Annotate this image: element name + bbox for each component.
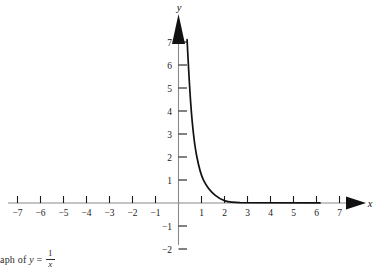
x-tick-label--5: −5 [58,208,68,218]
x-axis-arrow-icon [346,197,366,210]
x-tick-label-2: 2 [222,208,227,218]
caption-equals: = [34,254,45,265]
caption-denominator: x [46,260,55,269]
x-tick-label--2: −2 [127,208,137,218]
y-tick-label--2: −2 [162,245,172,255]
y-tick-label-7: 7 [167,38,172,48]
x-tick-label-3: 3 [245,208,250,218]
y-tick-label-6: 6 [167,61,172,71]
x-tick-label--6: −6 [35,208,45,218]
caption-numerator: 1 [46,249,55,258]
caption-prefix: aph of [0,254,29,265]
x-tick-label--1: −1 [150,208,160,218]
caption-fraction: 1x [46,249,55,269]
x-tick-label--7: −7 [12,208,22,218]
x-tick-label-7: 7 [337,208,342,218]
x-tick-label--4: −4 [81,208,91,218]
y-tick-label-5: 5 [167,84,172,94]
y-tick-label-2: 2 [167,153,172,163]
y-tick-label--1: −1 [162,222,172,232]
graph-figure: −7 −6 −5 −4 −3 −2 −1 1 2 3 4 5 6 7 1 2 3… [0,0,381,269]
y-tick-label-3: 3 [167,130,172,140]
y-tick-label-1: 1 [167,176,172,186]
curve-series-0 [187,40,320,203]
y-tick-label-4: 4 [167,107,172,117]
x-tick-label--3: −3 [104,208,114,218]
x-tick-label-6: 6 [314,208,319,218]
coordinate-plane-svg: −7 −6 −5 −4 −3 −2 −1 1 2 3 4 5 6 7 1 2 3… [0,0,381,269]
x-axis-label: x [367,198,373,209]
x-tick-label-1: 1 [199,208,204,218]
x-tick-label-4: 4 [268,208,273,218]
y-axis-label: y [176,2,182,13]
figure-caption: aph of y = 1x [0,249,56,269]
y-axis-arrow-icon [172,14,185,44]
x-tick-label-5: 5 [291,208,296,218]
